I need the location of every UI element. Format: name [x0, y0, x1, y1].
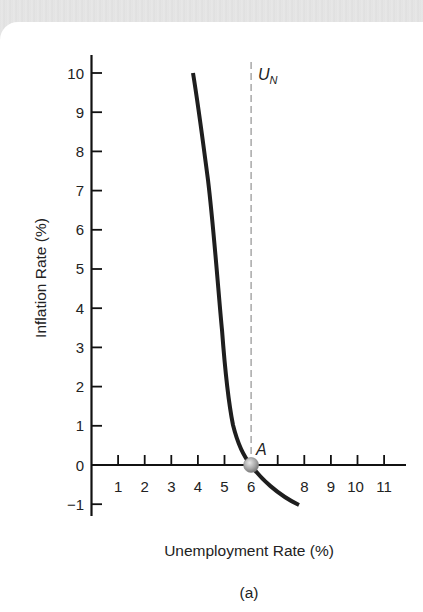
x-tick-labels: 1 2 3 4 5 6 8 9 10 11 [114, 478, 392, 495]
y-tick-label: 10 [67, 65, 84, 82]
figure-label: (a) [240, 584, 259, 601]
phillips-curve [193, 73, 299, 505]
x-tick-label: 2 [141, 478, 149, 495]
x-tick-label: 9 [327, 478, 335, 495]
x-tick-label: 3 [167, 478, 175, 495]
y-tick-label: −1 [67, 496, 84, 513]
y-tick-label: 8 [76, 143, 84, 160]
natural-rate-label: UN [258, 66, 278, 86]
y-tick-label: 5 [76, 260, 84, 277]
y-tick-label: 3 [76, 339, 84, 356]
y-tick-label: 2 [76, 378, 84, 395]
y-tick-labels: −1 0 1 2 3 4 5 6 7 8 9 10 [67, 65, 84, 513]
phillips-curve-chart: −1 0 1 2 3 4 5 6 7 8 9 10 1 2 3 4 5 6 8 … [0, 0, 423, 612]
y-axis-title: Inflation Rate (%) [32, 218, 49, 338]
y-tick-label: 9 [76, 104, 84, 121]
y-tick-label: 0 [76, 457, 84, 474]
x-tick-label: 4 [194, 478, 202, 495]
x-tick-label: 5 [220, 478, 228, 495]
x-tick-label: 8 [300, 478, 308, 495]
x-tick-label: 6 [247, 478, 255, 495]
y-tick-label: 6 [76, 221, 84, 238]
y-tick-label: 7 [76, 182, 84, 199]
x-tick-label: 1 [114, 478, 122, 495]
y-tick-label: 4 [76, 300, 84, 317]
point-a-marker [244, 458, 259, 473]
y-ticks [92, 73, 103, 504]
x-tick-label: 11 [376, 478, 392, 495]
x-tick-label: 10 [347, 478, 364, 495]
point-a-label: A [255, 441, 267, 458]
x-axis-title: Unemployment Rate (%) [164, 542, 334, 559]
y-tick-label: 1 [76, 417, 84, 434]
